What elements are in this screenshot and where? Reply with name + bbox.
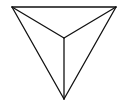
- edge-right: [64, 7, 116, 99]
- edge-center-top-right: [64, 7, 116, 38]
- tetrahedron-diagram: [0, 0, 123, 109]
- edge-center-top-left: [12, 7, 64, 38]
- edge-left: [12, 7, 64, 99]
